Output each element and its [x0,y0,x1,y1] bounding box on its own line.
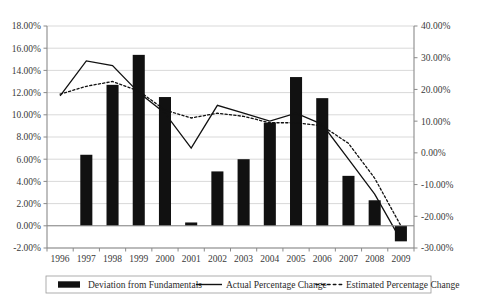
bar-2003 [238,159,250,226]
left-tick-label: 6.00% [16,155,41,165]
left-tick-label: 16.00% [12,44,41,54]
x-label-2005: 2005 [287,254,306,264]
axes [44,26,418,252]
left-tick-label: 14.00% [12,66,41,76]
left-tick-label: 4.00% [16,177,41,187]
legend-label: Actual Percentage Change [226,280,327,290]
bar-2006 [316,98,328,226]
right-axis-tick-labels: -30.00%-20.00%-10.00%0.00%10.00%20.00%30… [421,21,454,253]
right-tick-label: 30.00% [421,53,450,63]
right-tick-label: -20.00% [421,212,454,222]
bar-2005 [290,77,302,226]
left-tick-label: 8.00% [16,132,41,142]
x-label-1996: 1996 [51,254,70,264]
x-axis-category-labels: 1996199719981999200020012002200320042005… [51,254,411,264]
chart-legend: Deviation from FundamentalsActual Percen… [46,276,459,293]
left-tick-label: 0.00% [16,221,41,231]
x-label-2002: 2002 [208,254,227,264]
right-tick-label: 10.00% [421,117,450,127]
left-tick-label: 2.00% [16,199,41,209]
left-axis-tick-labels: -2.00%0.00%2.00%4.00%6.00%8.00%10.00%12.… [12,21,41,253]
right-tick-label: 40.00% [421,21,450,31]
x-label-1999: 1999 [129,254,148,264]
left-tick-label: 12.00% [12,88,41,98]
x-label-2008: 2008 [365,254,384,264]
x-label-2007: 2007 [339,254,358,264]
chart-canvas: -2.00%0.00%2.00%4.00%6.00%8.00%10.00%12.… [0,0,477,301]
gridlines [47,26,414,248]
right-tick-label: -10.00% [421,180,454,190]
bar-1997 [80,155,92,226]
bar-2007 [342,176,354,226]
bar-1998 [107,85,119,226]
x-label-2009: 2009 [391,254,410,264]
x-label-2006: 2006 [313,254,332,264]
chart-container: -2.00%0.00%2.00%4.00%6.00%8.00%10.00%12.… [0,0,477,301]
right-tick-label: -30.00% [421,243,454,253]
left-tick-label: -2.00% [13,243,41,253]
left-tick-label: 10.00% [12,110,41,120]
bar-2002 [211,171,223,225]
bar-2000 [159,97,171,226]
x-label-1997: 1997 [77,254,96,264]
legend-label: Deviation from Fundamentals [88,280,202,290]
right-tick-label: 20.00% [421,85,450,95]
x-label-2000: 2000 [155,254,174,264]
legend-label: Estimated Percentage Change [346,280,459,290]
right-tick-label: 0.00% [421,148,446,158]
left-tick-label: 18.00% [12,21,41,31]
bar-2008 [369,200,381,226]
bar-swatch-icon [58,281,80,287]
x-label-1998: 1998 [103,254,122,264]
x-label-2001: 2001 [182,254,201,264]
x-label-2004: 2004 [260,254,279,264]
x-label-2003: 2003 [234,254,253,264]
bar-2004 [264,123,276,226]
bar-1999 [133,55,145,226]
